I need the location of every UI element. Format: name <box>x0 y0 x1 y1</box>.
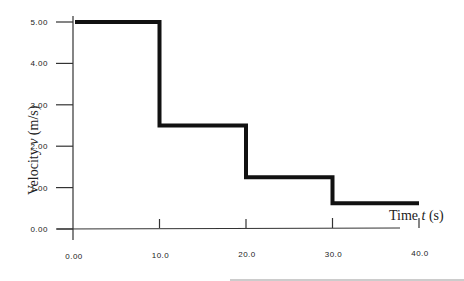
y-tick-label: 0.00 <box>30 225 48 234</box>
plot-line <box>75 22 419 203</box>
velocity-time-chart: 0.001.002.003.004.005.000.0010.020.030.0… <box>0 0 464 281</box>
x-tick-label: 10.0 <box>152 251 170 260</box>
x-axis-line <box>57 228 400 229</box>
x-tick-label: 20.0 <box>238 250 256 259</box>
x-tick-label: 40.0 <box>411 249 429 258</box>
axes: 0.001.002.003.004.005.000.0010.020.030.0… <box>30 16 428 261</box>
x-axis-title: Time t (s) <box>389 208 444 224</box>
velocity-series <box>75 22 419 203</box>
x-tick-label: 0.00 <box>65 252 83 261</box>
y-tick-label: 4.00 <box>30 59 48 68</box>
y-axis-title: Velocity v (m/s) <box>26 105 42 195</box>
x-tick-label: 30.0 <box>325 250 343 259</box>
y-tick-label: 5.00 <box>30 18 48 27</box>
